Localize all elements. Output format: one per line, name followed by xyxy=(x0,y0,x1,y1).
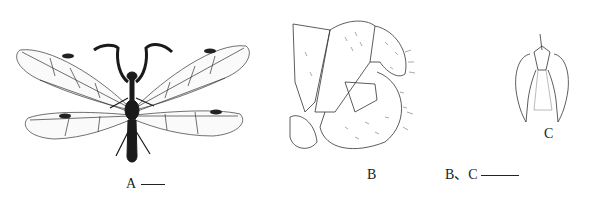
genitalia-lateral-illustration xyxy=(285,12,425,157)
insect-illustration xyxy=(10,38,255,173)
bc-scale-bar xyxy=(481,175,519,176)
panel-b-label: B xyxy=(367,168,376,182)
panel-b-genitalia xyxy=(285,12,425,157)
panel-a-scale-bar xyxy=(141,184,165,185)
panel-c-label: C xyxy=(544,127,553,141)
genitalia-ventral-illustration xyxy=(500,30,585,125)
panel-a-label: A xyxy=(126,177,136,191)
bc-scale-label: B、C xyxy=(445,168,478,182)
panel-a-insect xyxy=(10,38,255,173)
panel-c-genitalia xyxy=(500,30,585,125)
